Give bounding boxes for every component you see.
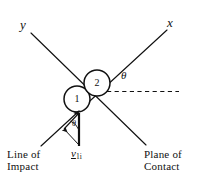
- axis-label-y: y: [20, 18, 26, 33]
- impact-diagram: y x 1 2 θ θ v1i Line of Impact Plane of …: [0, 0, 204, 182]
- caption-plane-of-contact-line2: Contact: [144, 160, 182, 172]
- ball-1-label: 1: [67, 93, 87, 104]
- caption-line-of-impact-line1: Line of: [7, 148, 40, 160]
- ball-2-label: 2: [87, 77, 107, 88]
- angle-label-theta-plane: θ: [121, 69, 126, 81]
- velocity-component-closing-line: [64, 129, 79, 145]
- axis-label-x: x: [167, 16, 173, 31]
- caption-line-of-impact-line2: Impact: [7, 160, 40, 172]
- caption-plane-of-contact: Plane of Contact: [144, 148, 182, 173]
- caption-line-of-impact: Line of Impact: [7, 148, 40, 173]
- velocity-label-v1i: v1i: [71, 147, 82, 161]
- velocity-subscript: 1i: [76, 152, 82, 161]
- caption-plane-of-contact-line1: Plane of: [144, 148, 182, 160]
- angle-label-theta-velocity: θ: [72, 120, 76, 129]
